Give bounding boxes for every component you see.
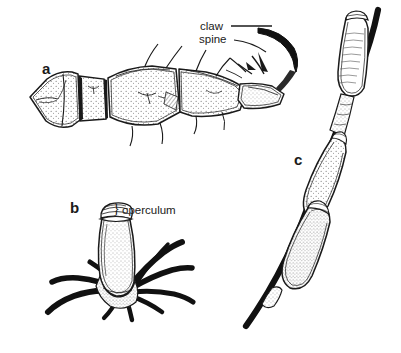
operculum-label: operculum — [122, 205, 176, 217]
panel-b-drawing — [48, 203, 193, 320]
panel-letter-c: c — [294, 152, 302, 167]
spine-label: spine — [199, 34, 227, 46]
panel-letter-a: a — [42, 61, 50, 76]
nit-egg-body — [98, 218, 134, 296]
figure-illustration: a b c claw spine } operculum — [0, 0, 401, 353]
leg-spines — [226, 52, 268, 78]
panel-a-drawing — [30, 26, 298, 146]
leg-femur-segment — [108, 44, 182, 146]
leg-trochanter-segment — [79, 76, 108, 121]
panel-c-drawing — [246, 10, 378, 326]
claw-label: claw — [200, 21, 223, 33]
leg-basal-segment — [30, 72, 80, 128]
leg-claw — [258, 28, 298, 92]
nit-capsule-top — [330, 11, 368, 136]
operculum-brace: } — [113, 202, 120, 216]
figure-drawing — [0, 0, 401, 353]
nit-capsule-bottom — [282, 201, 330, 289]
panel-letter-b: b — [70, 200, 79, 215]
